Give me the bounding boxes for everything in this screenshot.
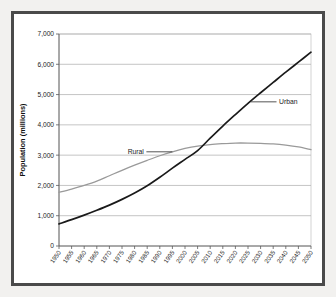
x-tick-label: 2020: [225, 249, 239, 265]
x-tick-label: 1985: [137, 249, 151, 265]
y-tick-label: 1,000: [37, 212, 54, 219]
y-axis-title: Population (millions): [18, 103, 27, 177]
y-tick-label: 5,000: [37, 91, 54, 98]
x-tick-label: 2040: [275, 249, 289, 265]
x-tick-label: 1965: [86, 249, 100, 265]
figure-frame: 01,0002,0003,0004,0005,0006,0007,000 195…: [11, 11, 325, 286]
annotation-label-urban: Urban: [279, 98, 298, 105]
x-tick-label: 1980: [124, 249, 138, 265]
x-tick-label: 2045: [288, 249, 302, 265]
x-tick-label: 2010: [200, 249, 214, 265]
x-tick-label: 1975: [111, 249, 125, 265]
x-tick-label: 1990: [149, 249, 163, 265]
y-axis-ticks: 01,0002,0003,0004,0005,0006,0007,000: [37, 30, 59, 249]
x-tick-label: 1995: [162, 249, 176, 265]
y-tick-label: 4,000: [37, 121, 54, 128]
plot-background: [59, 34, 311, 246]
x-tick-label: 2015: [212, 249, 226, 265]
x-tick-label: 1955: [61, 249, 75, 265]
x-tick-label: 2035: [263, 249, 277, 265]
chart-page: 01,0002,0003,0004,0005,0006,0007,000 195…: [0, 0, 336, 297]
annotation-label-rural: Rural: [128, 148, 145, 155]
x-tick-label: 1960: [74, 249, 88, 265]
x-tick-label: 1970: [99, 249, 113, 265]
x-tick-label: 2025: [237, 249, 251, 265]
y-tick-label: 7,000: [37, 30, 54, 37]
y-tick-label: 2,000: [37, 182, 54, 189]
x-tick-label: 2000: [174, 249, 188, 265]
y-tick-label: 6,000: [37, 61, 54, 68]
population-line-chart: 01,0002,0003,0004,0005,0006,0007,000 195…: [14, 14, 322, 283]
x-axis-ticks: 1950195519601965197019751980198519901995…: [48, 246, 314, 264]
y-tick-label: 3,000: [37, 152, 54, 159]
x-tick-label: 2005: [187, 249, 201, 265]
x-tick-label: 1950: [48, 249, 62, 265]
x-tick-label: 2050: [300, 249, 314, 265]
x-tick-label: 2030: [250, 249, 264, 265]
y-tick-label: 0: [50, 242, 54, 249]
